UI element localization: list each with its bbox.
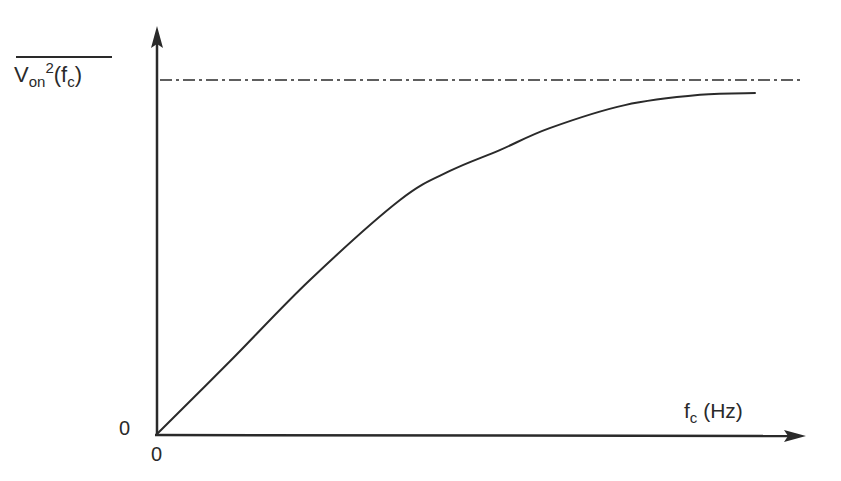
y-label-subscript: on <box>29 73 46 90</box>
y-label-main: V <box>14 62 29 87</box>
x-tick-zero: 0 <box>151 444 162 464</box>
x-label-unit: (Hz) <box>697 399 743 422</box>
x-axis <box>155 435 792 436</box>
mean-overbar <box>16 56 112 58</box>
y-axis-label: Von2(fc) <box>14 64 82 86</box>
data-curve <box>157 93 756 434</box>
x-label-main: f <box>684 399 690 422</box>
y-label-arg: (f <box>54 62 67 87</box>
x-label-subscript: c <box>690 409 698 426</box>
y-label-superscript: 2 <box>45 59 53 76</box>
y-tick-zero: 0 <box>119 418 130 438</box>
x-axis-label: fc (Hz) <box>684 400 743 421</box>
y-label-close: ) <box>75 62 82 87</box>
y-label-arg-subscript: c <box>67 73 75 90</box>
